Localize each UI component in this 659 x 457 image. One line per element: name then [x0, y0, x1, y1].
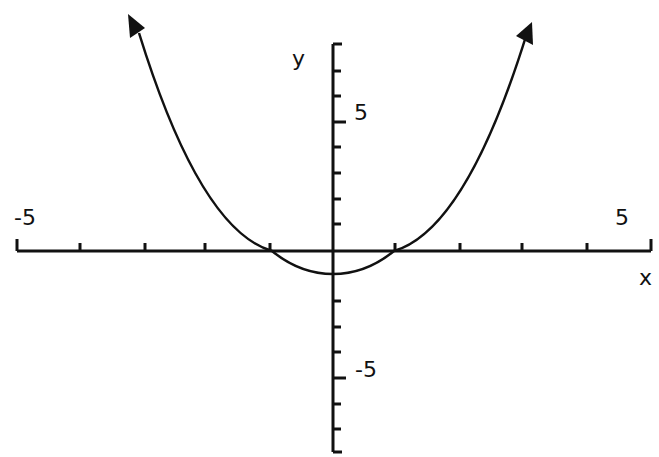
x-min-label: -5 [14, 205, 36, 230]
x-axis-label: x [639, 265, 652, 290]
y-axis-label: y [292, 46, 305, 71]
y-neg-label: -5 [355, 357, 377, 382]
y-pos-label: 5 [354, 100, 368, 125]
parabola-graph: -5 5 x y 5 -5 [0, 0, 659, 457]
arrowhead-left-icon [128, 14, 145, 38]
y-axis [333, 44, 346, 452]
x-max-label: 5 [615, 205, 629, 230]
